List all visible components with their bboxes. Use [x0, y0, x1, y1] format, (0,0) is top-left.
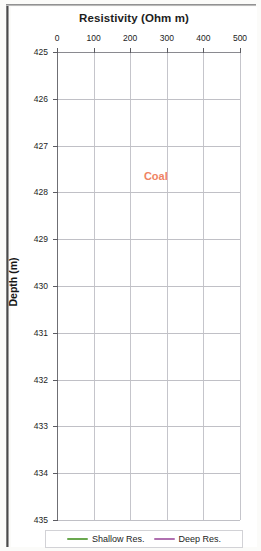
y-axis-tick-label: 430 — [34, 281, 48, 291]
x-axis-tick — [240, 48, 241, 53]
plot-area: 0100200300400500425426427428429430431432… — [57, 52, 240, 520]
gridline-horizontal — [57, 286, 240, 287]
resistivity-depth-figure: Resistivity (Ohm m) Depth (m) 0100200300… — [11, 7, 257, 547]
y-axis-tick-label: 432 — [34, 375, 48, 385]
x-axis-tick-label: 200 — [123, 33, 137, 43]
y-axis-tick — [53, 520, 58, 521]
legend-label-deep: Deep Res. — [179, 534, 222, 544]
x-axis-tick — [203, 48, 204, 53]
legend-label-shallow: Shallow Res. — [92, 534, 145, 544]
x-axis-tick-label: 400 — [196, 33, 210, 43]
y-axis-tick — [53, 239, 58, 240]
y-axis-tick — [53, 333, 58, 334]
y-axis-tick — [53, 380, 58, 381]
legend-item-deep: Deep Res. — [154, 534, 222, 544]
gridline-horizontal — [57, 380, 240, 381]
y-axis-tick — [53, 99, 58, 100]
y-axis-tick-label: 429 — [34, 234, 48, 244]
legend-swatch-deep — [154, 538, 175, 541]
y-axis-tick-label: 435 — [34, 515, 48, 525]
chart-legend: Shallow Res. Deep Res. — [45, 530, 243, 548]
y-axis-tick-label: 431 — [34, 328, 48, 338]
x-axis-tick — [167, 48, 168, 53]
y-axis-tick-label: 426 — [34, 94, 48, 104]
x-axis-tick-label: 300 — [160, 33, 174, 43]
y-axis-tick-label: 425 — [34, 47, 48, 57]
y-axis-title: Depth (m) — [7, 258, 19, 307]
y-axis-tick — [53, 473, 58, 474]
x-axis-tick-label: 100 — [87, 33, 101, 43]
page-edge-top — [6, 4, 256, 6]
y-axis-tick-label: 428 — [34, 187, 48, 197]
legend-swatch-shallow — [67, 538, 88, 541]
y-axis-tick — [53, 52, 58, 53]
legend-item-shallow: Shallow Res. — [67, 534, 145, 544]
gridline-horizontal — [57, 99, 240, 100]
gridline-horizontal — [57, 192, 240, 193]
y-axis-tick-label: 427 — [34, 141, 48, 151]
gridline-horizontal — [57, 333, 240, 334]
y-axis-tick — [53, 426, 58, 427]
x-axis-line — [57, 52, 240, 53]
chart-title: Resistivity (Ohm m) — [11, 12, 257, 24]
gridline-horizontal — [57, 239, 240, 240]
x-axis-tick-label: 0 — [55, 33, 60, 43]
gridline-horizontal — [57, 146, 240, 147]
y-axis-tick — [53, 192, 58, 193]
y-axis-tick-label: 433 — [34, 421, 48, 431]
y-axis-tick-label: 434 — [34, 468, 48, 478]
gridline-horizontal — [57, 473, 240, 474]
coal-annotation-label: Coal — [144, 170, 168, 182]
gridline-vertical — [240, 52, 241, 520]
y-axis-tick — [53, 286, 58, 287]
x-axis-tick — [94, 48, 95, 53]
y-axis-tick — [53, 146, 58, 147]
x-axis-tick — [130, 48, 131, 53]
gridline-horizontal — [57, 520, 240, 521]
x-axis-tick-label: 500 — [233, 33, 247, 43]
gridline-horizontal — [57, 426, 240, 427]
